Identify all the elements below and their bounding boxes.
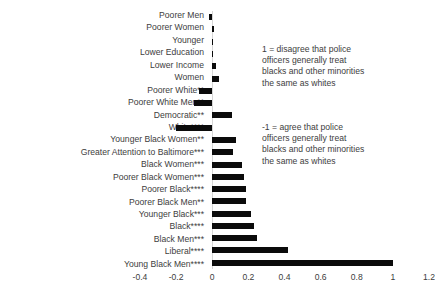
bar-row bbox=[140, 220, 429, 232]
bar-row bbox=[140, 257, 429, 269]
bar-row bbox=[140, 208, 429, 220]
bar-row bbox=[140, 109, 429, 121]
bar-row bbox=[140, 244, 429, 256]
bar bbox=[212, 198, 245, 204]
bar bbox=[212, 137, 235, 143]
x-tick-label: 0.2 bbox=[242, 272, 254, 282]
bar bbox=[212, 76, 218, 82]
x-tick-label: 0.6 bbox=[315, 272, 327, 282]
bar bbox=[212, 63, 216, 69]
bar bbox=[212, 149, 233, 155]
x-tick-label: -0.4 bbox=[133, 272, 148, 282]
bar bbox=[199, 88, 213, 94]
bar-row bbox=[140, 11, 429, 23]
annotation-negative-scale: -1 = agree that police officers generall… bbox=[262, 122, 370, 167]
bar bbox=[212, 26, 214, 32]
bar bbox=[212, 112, 232, 118]
x-tick-label: 0.8 bbox=[351, 272, 363, 282]
bar bbox=[209, 14, 213, 20]
bar bbox=[212, 51, 213, 57]
bar bbox=[176, 125, 212, 131]
bar bbox=[212, 223, 254, 229]
bar bbox=[212, 174, 244, 180]
bar bbox=[212, 211, 251, 217]
bar-row bbox=[140, 97, 429, 109]
x-tick-label: 1 bbox=[390, 272, 395, 282]
bar-row bbox=[140, 171, 429, 183]
bar bbox=[212, 39, 213, 45]
bar-row bbox=[140, 195, 429, 207]
bar bbox=[194, 100, 212, 106]
annotation-positive-scale: 1 = disagree that police officers genera… bbox=[262, 44, 370, 89]
bar bbox=[212, 260, 393, 266]
x-axis: -0.4-0.200.20.40.60.811.2 bbox=[140, 272, 429, 292]
bar bbox=[212, 247, 288, 253]
bar-row bbox=[140, 183, 429, 195]
x-tick-label: 0.4 bbox=[279, 272, 291, 282]
bar bbox=[212, 235, 257, 241]
bar-row bbox=[140, 23, 429, 35]
bar bbox=[212, 162, 242, 168]
x-tick-label: 1.2 bbox=[423, 272, 435, 282]
x-tick-label: -0.2 bbox=[169, 272, 184, 282]
bar-row bbox=[140, 232, 429, 244]
x-tick-label: 0 bbox=[210, 272, 215, 282]
bar bbox=[212, 186, 245, 192]
